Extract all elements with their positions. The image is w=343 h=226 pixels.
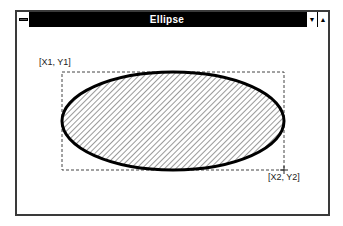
system-menu-button[interactable] — [17, 12, 30, 27]
minimize-icon: ▼ — [309, 16, 316, 23]
title-bar[interactable]: Ellipse ▼ ▲ — [17, 12, 328, 27]
hatched-ellipse — [62, 72, 284, 170]
maximize-button[interactable]: ▲ — [317, 12, 328, 27]
minimize-button[interactable]: ▼ — [306, 12, 317, 27]
client-area: [X1, Y1] [X2, Y2] — [17, 27, 328, 214]
system-menu-icon — [19, 18, 28, 21]
label-x1-y1: [X1, Y1] — [39, 57, 71, 67]
label-x2-y2: [X2, Y2] — [268, 172, 300, 182]
ellipse-window: Ellipse ▼ ▲ [X1, Y1] [X2, Y2] — [15, 10, 330, 216]
ellipse-drawing — [17, 27, 328, 214]
maximize-icon: ▲ — [320, 16, 327, 23]
window-title: Ellipse — [30, 12, 304, 27]
